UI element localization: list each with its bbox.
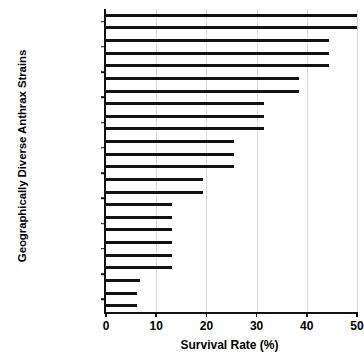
bar xyxy=(106,77,299,80)
y-tick-mark xyxy=(101,223,106,225)
y-tick-mark xyxy=(101,71,106,73)
y-tick-mark xyxy=(101,147,106,149)
x-tick-mark xyxy=(206,312,208,317)
y-tick-mark xyxy=(101,273,106,275)
y-tick-mark xyxy=(101,46,106,48)
bar xyxy=(106,127,264,130)
x-tick-label: 10 xyxy=(136,319,176,333)
bar xyxy=(106,178,203,181)
bar xyxy=(106,254,172,257)
bar xyxy=(106,39,329,42)
x-tick-mark xyxy=(105,312,107,317)
bar xyxy=(106,165,234,168)
y-tick-mark xyxy=(101,248,106,250)
bar xyxy=(106,115,264,118)
bar xyxy=(106,228,172,231)
y-tick-mark xyxy=(101,299,106,301)
y-tick-mark xyxy=(101,198,106,200)
bar-chart: Geographically Diverse Anthrax Strains C… xyxy=(0,0,364,357)
bar xyxy=(106,216,172,219)
y-tick-mark xyxy=(101,97,106,99)
bar xyxy=(106,279,140,282)
bar xyxy=(106,14,357,17)
x-tick-mark xyxy=(155,312,157,317)
x-tick-mark xyxy=(356,312,358,317)
bar xyxy=(106,292,137,295)
x-tick-label: 20 xyxy=(186,319,226,333)
bar xyxy=(106,52,329,55)
y-tick-mark xyxy=(101,21,106,23)
bar xyxy=(106,90,299,93)
x-tick-label: 30 xyxy=(237,319,277,333)
plot-area: CanadaMozambiqueIrelandItalyHaitiS. Afri… xyxy=(104,9,357,314)
x-tick-mark xyxy=(306,312,308,317)
bar xyxy=(106,304,137,307)
bar xyxy=(106,26,357,29)
x-tick-label: 0 xyxy=(86,319,126,333)
bar xyxy=(106,64,329,67)
y-tick-mark xyxy=(101,172,106,174)
x-tick-label: 40 xyxy=(287,319,327,333)
bar xyxy=(106,191,203,194)
bar xyxy=(106,102,264,105)
x-tick-label: 50 xyxy=(337,319,364,333)
y-axis-title: Geographically Diverse Anthrax Strains xyxy=(16,6,28,306)
y-tick-mark xyxy=(101,122,106,124)
bar xyxy=(106,241,172,244)
x-tick-mark xyxy=(256,312,258,317)
bar xyxy=(106,203,172,206)
bar xyxy=(106,266,172,269)
x-axis-title: Survival Rate (%) xyxy=(104,338,355,352)
gridline xyxy=(357,9,358,312)
bar xyxy=(106,140,234,143)
bar xyxy=(106,153,234,156)
